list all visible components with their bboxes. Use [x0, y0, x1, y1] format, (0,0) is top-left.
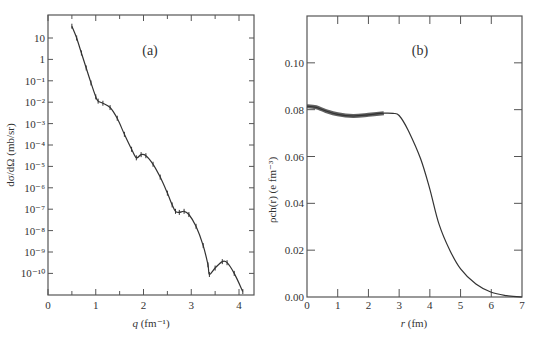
panel-a-data-points [72, 24, 243, 294]
y-tick-label: 10⁻⁵ [24, 160, 45, 172]
panel-a-y-axis-label: dσ/dΩ (mb/sr) [4, 123, 17, 187]
panel-b-charge-density: 0.000.020.040.060.080.10 01234567 (b) r … [266, 16, 525, 330]
y-tick-label: 0.10 [285, 57, 305, 69]
y-tick-label: 10⁻⁷ [24, 203, 45, 215]
y-tick-label: 10⁻⁴ [24, 139, 45, 151]
x-tick-label: 5 [458, 299, 464, 311]
x-tick-label: 1 [93, 299, 99, 311]
x-tick-label: 7 [519, 299, 525, 311]
panel-a-y-tick-labels: 10110⁻¹10⁻²10⁻³10⁻⁴10⁻⁵10⁻⁶10⁻⁷10⁻⁸10⁻⁹1… [21, 32, 46, 279]
x-tick-label: 0 [45, 299, 51, 311]
panel-b-frame [307, 16, 522, 297]
x-tick-label: 3 [189, 299, 195, 311]
x-tick-label: 6 [489, 299, 495, 311]
x-tick-label: 1 [335, 299, 341, 311]
x-tick-label: 2 [366, 299, 372, 311]
y-tick-label: 0.02 [285, 244, 304, 256]
y-tick-label: 10⁻³ [25, 118, 46, 130]
y-tick-label: 10 [34, 32, 46, 44]
x-tick-label: 2 [141, 299, 147, 311]
panel-b-x-tick-labels: 01234567 [304, 299, 525, 311]
y-tick-label: 10⁻¹ [25, 75, 45, 87]
y-tick-label: 10⁻² [25, 96, 46, 108]
y-tick-label: 10⁻⁸ [24, 225, 45, 237]
y-tick-label: 10⁻⁶ [24, 182, 45, 194]
x-tick-label: 3 [396, 299, 402, 311]
y-tick-label: 0.08 [285, 104, 305, 116]
panel-a-label: (a) [142, 43, 158, 59]
y-tick-label: 0.06 [285, 151, 305, 163]
y-tick-label: 0.00 [285, 291, 305, 303]
panel-b-y-tick-labels: 0.000.020.040.060.080.10 [285, 57, 305, 303]
panel-b-label: (b) [412, 43, 429, 59]
panel-a-cross-section-curve [72, 26, 243, 291]
panel-b-y-axis-label: ρch(r) (e fm⁻³) [266, 157, 279, 223]
x-tick-label: 0 [304, 299, 310, 311]
panel-b-ticks [307, 16, 522, 297]
y-tick-label: 1 [40, 53, 46, 65]
x-tick-label: 4 [236, 299, 242, 311]
panel-b-density-curve [307, 106, 522, 297]
panel-a-scattering-cross-section: 10110⁻¹10⁻²10⁻³10⁻⁴10⁻⁵10⁻⁶10⁻⁷10⁻⁸10⁻⁹1… [4, 15, 254, 330]
y-tick-label: 10⁻¹⁰ [21, 267, 46, 279]
y-tick-label: 0.04 [285, 197, 305, 209]
y-tick-label: 10⁻⁹ [24, 246, 45, 258]
panel-b-x-axis-label: r (fm) [401, 317, 428, 330]
figure: 10110⁻¹10⁻²10⁻³10⁻⁴10⁻⁵10⁻⁶10⁻⁷10⁻⁸10⁻⁹1… [0, 0, 537, 340]
panel-a-x-axis-label: q (fm⁻¹) [132, 317, 169, 330]
x-tick-label: 4 [427, 299, 433, 311]
panel-a-x-tick-labels: 01234 [45, 299, 242, 311]
